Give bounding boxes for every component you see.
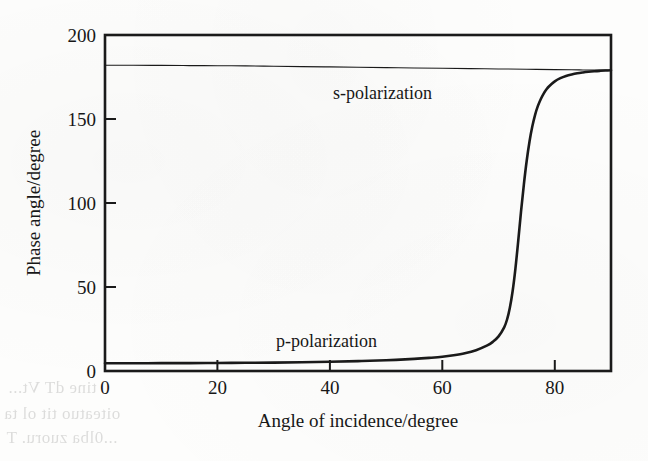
x-tick-label-60: 60	[433, 377, 452, 398]
y-axis-tick-labels: 0 50 100 150 200	[68, 25, 97, 382]
series-line-p-polarization	[105, 70, 611, 363]
x-axis-tick-labels: 0 20 40 60 80	[100, 377, 564, 398]
x-tick-label-0: 0	[100, 377, 110, 398]
x-tick-label-80: 80	[545, 377, 564, 398]
series-line-s-polarization	[105, 65, 611, 70]
y-axis-ticks	[105, 35, 116, 371]
annotation-p-polarization: p-polarization	[276, 331, 377, 351]
x-axis-title: Angle of incidence/degree	[258, 410, 458, 431]
y-tick-label-0: 0	[87, 361, 97, 382]
y-tick-label-200: 200	[68, 25, 97, 46]
y-tick-label-50: 50	[77, 277, 96, 298]
figure-page: tine dT Vt... oiteatuo tit ol ta ...0lba…	[0, 0, 648, 461]
y-axis-title: Phase angle/degree	[23, 130, 44, 276]
phase-angle-chart: 0 20 40 60 80 0 50 100 150 200 Angle of …	[0, 0, 648, 461]
y-tick-label-150: 150	[68, 109, 97, 130]
x-tick-label-20: 20	[208, 377, 227, 398]
annotation-s-polarization: s-polarization	[333, 83, 432, 103]
x-tick-label-40: 40	[320, 377, 339, 398]
y-tick-label-100: 100	[68, 193, 97, 214]
